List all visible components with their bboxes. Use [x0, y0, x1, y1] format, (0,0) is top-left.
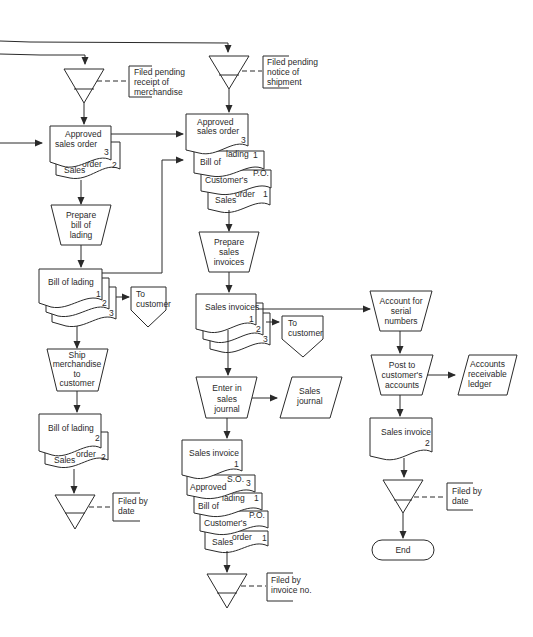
copy-number: 3	[263, 334, 268, 344]
copy-number: 3	[241, 135, 246, 145]
copy-number: 2	[425, 438, 430, 448]
copy-number: 2	[101, 452, 106, 462]
document-sales-invoice-copy-2: Sales invoice 2	[370, 418, 432, 460]
flowchart-canvas: Filed pending receipt of merchandise Sal…	[0, 0, 533, 637]
operation-label: lading	[70, 230, 93, 240]
manual-operation-account-for-serial-numbers: Account for serial numbers	[370, 291, 432, 331]
operation-label: accounts	[385, 380, 419, 390]
copy-number: 3	[246, 478, 251, 488]
copy-number: 1	[263, 189, 268, 199]
page-title: Sales invoice	[381, 427, 431, 437]
off-page-connector-to-customer-middle: To customer	[282, 316, 323, 357]
terminal-end: End	[372, 540, 434, 560]
off-page-connector-to-customer-left: To customer	[131, 287, 171, 327]
page-title: Bill of lading	[48, 423, 94, 433]
page-title: Sales invoices	[205, 302, 259, 312]
page-title: Sales	[215, 195, 236, 205]
annotation-line: date	[118, 506, 135, 516]
ledger-accounts-receivable: Accounts receivable ledger	[458, 355, 517, 395]
offline-file-pending-shipment: Filed pending notice of shipment	[209, 56, 318, 89]
operation-label: bill of	[71, 220, 91, 230]
document-stack-sales-invoices: 3 2 Sales invoices 1	[196, 294, 270, 353]
annotation-line: Filed pending	[267, 57, 318, 67]
operation-label: customer	[60, 378, 95, 388]
operation-label: serial	[391, 306, 411, 316]
page-title: Customer's	[204, 518, 247, 528]
page-title: Sales invoice	[189, 448, 239, 458]
copy-number: 1	[249, 314, 254, 324]
annotation-line: Filed by	[118, 496, 149, 506]
offline-file-pending-merchandise: Filed pending receipt of merchandise	[64, 66, 185, 103]
connector-label: customer	[136, 299, 171, 309]
page-title: Sales	[212, 537, 233, 547]
page-title: Approved	[65, 129, 102, 139]
annotation-line: shipment	[267, 77, 302, 87]
copy-number: 3	[104, 147, 109, 157]
copy-number: 3	[109, 308, 114, 318]
annotation-line: date	[452, 496, 469, 506]
annotation-line: Filed pending	[134, 67, 185, 77]
page-title: S.O.	[227, 474, 244, 484]
manual-operation-prepare-bill-of-lading: Prepare bill of lading	[51, 205, 111, 245]
manual-operation-ship-merchandise: Ship merchandise to customer	[47, 349, 108, 391]
page-title: P.O.	[253, 168, 269, 178]
operation-label: sales	[219, 247, 239, 257]
operation-label: Account for	[380, 296, 423, 306]
operation-label: merchandise	[53, 359, 102, 369]
document-stack-bill-of-lading: 3 2 Bill of lading 1	[39, 269, 116, 327]
copy-number: 1	[234, 459, 239, 469]
offline-file-by-date-left: Filed by date	[55, 493, 149, 529]
copy-number: 2	[102, 298, 107, 308]
operation-label: Prepare	[214, 237, 245, 247]
copy-number: 2	[256, 324, 261, 334]
copy-number: 1	[254, 493, 259, 503]
copy-number: 1	[96, 289, 101, 299]
terminal-label: End	[395, 545, 410, 555]
page-title: sales order	[197, 126, 239, 136]
document-stack-approved-sales-order-left: Sales order 2 Approved sales order 3	[50, 126, 120, 179]
operation-label: journal	[213, 404, 240, 414]
copy-number: 2	[95, 433, 100, 443]
ledger-sales-journal: Sales journal	[280, 377, 342, 418]
page-title: order	[76, 449, 96, 459]
connector-label: To	[136, 289, 145, 299]
page-title: Bill of	[198, 501, 219, 511]
ledger-label: ledger	[468, 379, 492, 389]
page-title: order	[232, 532, 252, 542]
operation-label: invoices	[214, 257, 245, 267]
document-stack-approved-sales-order-middle: Sales order 1 Customer's P.O. Bill of la…	[186, 114, 271, 213]
ledger-label: Accounts	[470, 359, 505, 369]
connector-label: To	[288, 318, 297, 328]
document-stack-bill-of-lading-sales-order: Sales order 2 Bill of lading 2	[39, 414, 108, 468]
ledger-label: journal	[296, 396, 323, 406]
copy-number: 1	[253, 150, 258, 160]
document-stack-sales-invoice-filed: Sales order 1 Customer's P.O. Bill of la…	[182, 440, 268, 553]
ledger-label: receivable	[468, 369, 507, 379]
annotation-line: merchandise	[134, 87, 183, 97]
connector-label: customer	[288, 328, 323, 338]
annotation-line: Filed by	[452, 486, 483, 496]
annotation-line: notice of	[267, 67, 300, 77]
operation-label: sales	[217, 394, 237, 404]
operation-label: customer's	[382, 370, 423, 380]
annotation-line: receipt of	[134, 77, 170, 87]
annotation-line: invoice no.	[271, 585, 312, 595]
page-title: lading	[226, 149, 249, 159]
operation-label: Prepare	[66, 210, 97, 220]
page-title: P.O.	[249, 510, 265, 520]
offline-file-by-date-right: Filed by date	[383, 480, 483, 513]
ledger-label: Sales	[299, 386, 320, 396]
page-title: Bill of	[200, 157, 221, 167]
manual-operation-enter-sales-journal: Enter in sales journal	[196, 377, 257, 418]
operation-label: Enter in	[212, 383, 242, 393]
page-title: Approved	[190, 482, 227, 492]
manual-operation-post-to-customer-accounts: Post to customer's accounts	[371, 355, 433, 395]
copy-number: 1	[262, 533, 267, 543]
page-title: sales order	[55, 139, 97, 149]
offline-file-by-invoice-number: Filed by invoice no.	[207, 573, 312, 608]
page-title: Bill of lading	[48, 277, 94, 287]
operation-label: Post to	[389, 360, 416, 370]
manual-operation-prepare-sales-invoices: Prepare sales invoices	[199, 232, 259, 272]
copy-number: 2	[112, 160, 117, 170]
operation-label: numbers	[384, 316, 417, 326]
